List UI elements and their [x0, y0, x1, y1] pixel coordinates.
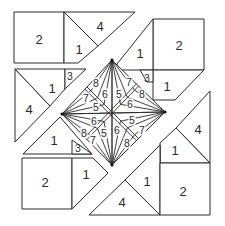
piece-number-label: 2 [175, 38, 182, 53]
tip-dot [163, 110, 166, 113]
piece-number-label: 2 [35, 32, 42, 47]
piece-number-label: 5 [116, 88, 122, 100]
piece-number-label: 1 [143, 174, 150, 189]
piece-number-label: 6 [102, 88, 108, 100]
piece-number-label: 3 [144, 72, 150, 84]
tip-dot [110, 163, 113, 166]
piece-number-label: 7 [90, 134, 96, 146]
piece-number-label: 8 [124, 137, 130, 149]
piece-number-label: 5 [101, 127, 107, 139]
tip-dot [60, 112, 63, 115]
piece-number-label: 6 [91, 115, 97, 127]
piece-number-label: 1 [163, 79, 170, 94]
piece-number-label: 5 [93, 101, 99, 113]
piece-number-label: 6 [114, 124, 120, 136]
piece-number-label: 3 [75, 142, 81, 154]
triangle-1 [117, 19, 153, 70]
quilt-canvas: 24121131431321413412 8657867568756857 [0, 0, 225, 226]
piece-number-label: 7 [83, 92, 89, 104]
piece-number-label: 1 [48, 81, 55, 96]
top-left-block: 241 [14, 12, 135, 63]
piece-number-label: 8 [139, 88, 145, 100]
piece-number-label: 4 [118, 195, 125, 210]
piece-number-label: 3 [67, 70, 73, 82]
piece-number-label: 8 [93, 77, 99, 89]
triangle-1b [153, 70, 204, 100]
piece-number-label: 7 [139, 124, 145, 136]
piece-number-label: 4 [96, 19, 103, 34]
piece-number-label: 1 [82, 167, 89, 182]
piece-number-label: 5 [129, 114, 135, 126]
piece-number-label: 1 [136, 46, 143, 61]
piece-number-label: 2 [179, 184, 186, 199]
piece-number-label: 6 [127, 98, 133, 110]
piece-number-label: 1 [75, 42, 82, 57]
quilt-diagram: 24121131431321413412 8657867568756857 [0, 0, 225, 226]
piece-number-label: 4 [25, 102, 32, 117]
tip-dot [110, 58, 113, 61]
piece-number-label: 1 [171, 143, 178, 158]
piece-number-label: 7 [126, 76, 132, 88]
piece-number-label: 4 [194, 122, 201, 137]
piece-number-label: 2 [41, 175, 48, 190]
piece-number-label: 8 [81, 127, 87, 139]
piece-number-label: 1 [50, 133, 57, 148]
